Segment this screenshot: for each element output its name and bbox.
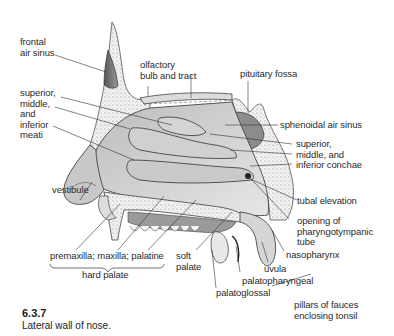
label-nasopharynx: nasopharynx bbox=[286, 250, 339, 261]
label-hard-palate: hard palate bbox=[82, 270, 128, 281]
label-line: soft bbox=[176, 251, 201, 262]
label-line: superior, bbox=[20, 88, 56, 99]
label-vestibule: vestibule bbox=[52, 185, 89, 196]
label-line: pillars of fauces bbox=[294, 300, 358, 311]
label-tubal-elevation: tubal elevation bbox=[297, 196, 357, 207]
label-line: olfactory bbox=[140, 60, 196, 71]
label-pituitary-fossa: pituitary fossa bbox=[240, 69, 297, 80]
figure-caption: Lateral wall of nose. bbox=[22, 320, 111, 331]
label-line: inferior conchae bbox=[296, 160, 362, 171]
label-soft-palate: soft palate bbox=[176, 251, 201, 272]
label-line: air sinus bbox=[20, 48, 54, 59]
label-line: superior, bbox=[296, 139, 362, 150]
label-line: opening of bbox=[297, 216, 373, 227]
label-palatoglossal: palatoglossal bbox=[216, 288, 270, 299]
label-meati: superior, middle, and inferior meati bbox=[20, 88, 56, 141]
label-line: meati bbox=[20, 130, 56, 141]
label-conchae: superior, middle, and inferior conchae bbox=[296, 139, 362, 171]
label-palatopharyngeal: palatopharyngeal bbox=[242, 276, 313, 287]
label-sphenoidal-air-sinus: sphenoidal air sinus bbox=[280, 120, 362, 131]
label-line: tube bbox=[297, 237, 373, 248]
label-line: and bbox=[20, 109, 56, 120]
label-hard-palate-parts: premaxilla; maxilla; palatine bbox=[50, 251, 164, 262]
diagram-stage: frontal air sinus olfactory bulb and tra… bbox=[0, 0, 394, 336]
label-frontal-air-sinus: frontal air sinus bbox=[20, 37, 54, 58]
label-olfactory-bulb: olfactory bulb and tract bbox=[140, 60, 196, 81]
label-pillars-of-fauces: pillars of fauces enclosing tonsil bbox=[294, 300, 358, 321]
label-line: enclosing tonsil bbox=[294, 311, 358, 322]
label-line: palate bbox=[176, 262, 201, 273]
label-pharyngotympanic-tube: opening of pharyngotympanic tube bbox=[297, 216, 373, 248]
label-line: bulb and tract bbox=[140, 71, 196, 82]
label-line: frontal bbox=[20, 37, 54, 48]
label-uvula: uvula bbox=[264, 264, 286, 275]
figure-number: 6.3.7 bbox=[22, 307, 46, 319]
